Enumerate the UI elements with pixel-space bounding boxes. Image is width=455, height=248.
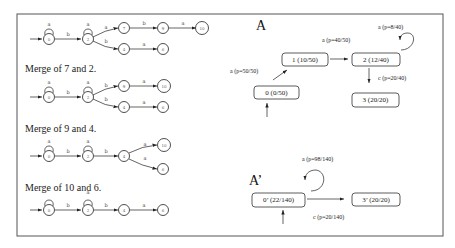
svg-text:a (p=50/50): a (p=50/50) <box>230 68 258 75</box>
svg-text:b: b <box>66 202 69 208</box>
svg-text:a (p=98/140): a (p=98/140) <box>302 156 333 163</box>
svg-text:9: 9 <box>162 26 165 31</box>
svg-text:6: 6 <box>162 47 165 52</box>
svg-text:a: a <box>48 79 51 85</box>
svg-text:4: 4 <box>123 47 126 52</box>
svg-text:a (p=8/40): a (p=8/40) <box>378 24 403 31</box>
svg-text:1 (10/50): 1 (10/50) <box>292 56 319 64</box>
svg-text:2: 2 <box>87 95 90 100</box>
svg-text:4: 4 <box>123 105 126 110</box>
title-A-prime: A’ <box>249 173 262 188</box>
automaton-merge-9-4: a 0 b a 2 b 4 a 10 a 6 <box>30 138 171 175</box>
svg-text:2: 2 <box>87 208 90 213</box>
automaton-initial: a 0 b a 2 a 7 b 9 a 10 b 4 a 6 <box>30 20 209 55</box>
svg-text:9: 9 <box>123 84 126 89</box>
svg-text:b: b <box>66 148 69 154</box>
svg-text:2: 2 <box>87 37 90 42</box>
svg-text:6: 6 <box>162 167 165 172</box>
svg-text:3’ (20/20): 3’ (20/20) <box>362 196 390 204</box>
automaton-merge-10-6: 0 b 2 b 4 a 6 <box>30 200 169 216</box>
diagram-canvas: a 0 b a 2 a 7 b 9 a 10 b 4 a 6 Merge of … <box>0 0 455 248</box>
svg-text:a: a <box>143 78 146 84</box>
svg-text:a: a <box>143 99 146 105</box>
svg-text:a: a <box>87 21 90 27</box>
svg-text:a: a <box>48 138 51 144</box>
svg-text:b: b <box>66 31 69 37</box>
svg-text:b: b <box>104 38 107 44</box>
automaton-A: A 0 (0/50) a (p=50/50) 1 (10/50) a (p=40… <box>230 18 414 117</box>
svg-text:a: a <box>105 24 108 30</box>
stray-label: a <box>87 189 90 195</box>
caption-merge-9-4: Merge of 9 and 4. <box>25 123 96 134</box>
svg-text:a: a <box>182 20 185 26</box>
automaton-A-prime: A’ a (p=98/140) 0’ (22/140) c (p=20/140)… <box>249 156 400 224</box>
svg-text:0: 0 <box>48 95 51 100</box>
caption-merge-7-2: Merge of 7 and 2. <box>25 63 96 74</box>
svg-text:a: a <box>87 138 90 144</box>
svg-text:4: 4 <box>123 208 126 213</box>
svg-text:a: a <box>143 202 146 208</box>
svg-text:0’ (22/140): 0’ (22/140) <box>263 196 295 204</box>
svg-text:0 (0/50): 0 (0/50) <box>265 89 288 97</box>
title-A: A <box>256 18 267 33</box>
svg-text:0: 0 <box>48 208 51 213</box>
svg-text:2: 2 <box>87 154 90 159</box>
svg-text:3 (20/20): 3 (20/20) <box>363 96 390 104</box>
svg-text:10: 10 <box>161 143 167 148</box>
svg-text:b: b <box>104 96 107 102</box>
svg-text:a: a <box>144 141 147 147</box>
svg-text:10: 10 <box>199 26 205 31</box>
automaton-merge-7-2: a 0 b a 2 b 9 a 10 b 4 a 6 <box>30 78 171 113</box>
svg-text:b: b <box>66 89 69 95</box>
svg-text:c (p=20/140): c (p=20/140) <box>313 214 344 221</box>
svg-text:6: 6 <box>162 208 165 213</box>
svg-text:b: b <box>104 202 107 208</box>
svg-text:b: b <box>104 82 107 88</box>
svg-text:0: 0 <box>48 154 51 159</box>
svg-text:7: 7 <box>123 26 126 31</box>
svg-text:a: a <box>143 41 146 47</box>
svg-text:b: b <box>104 148 107 154</box>
caption-merge-10-6: Merge of 10 and 6. <box>25 182 101 193</box>
svg-text:2 (12/40): 2 (12/40) <box>363 56 390 64</box>
svg-text:a: a <box>87 79 90 85</box>
svg-text:6: 6 <box>162 105 165 110</box>
svg-text:b: b <box>142 20 145 26</box>
svg-text:c (p=20/40): c (p=20/40) <box>378 75 406 82</box>
svg-text:0: 0 <box>48 37 51 42</box>
svg-text:a (p=40/50): a (p=40/50) <box>322 37 350 44</box>
svg-text:a: a <box>48 21 51 27</box>
svg-text:4: 4 <box>123 154 126 159</box>
svg-text:a: a <box>144 155 147 161</box>
svg-text:10: 10 <box>161 84 167 89</box>
